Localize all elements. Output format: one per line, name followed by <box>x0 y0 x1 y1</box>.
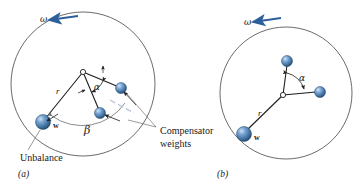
angle-beta-label-a: β <box>83 124 90 137</box>
rotor-hub-b <box>280 92 285 97</box>
rotor-hub-a <box>80 69 85 74</box>
unbalance-callout-a: Unbalance <box>20 152 63 163</box>
radius-label-a: r <box>56 86 60 96</box>
arm-compensator-1-b <box>283 65 287 95</box>
leader-compensator-a-1 <box>127 94 156 127</box>
rotor-circle-a <box>11 12 155 156</box>
radius-label-b: r <box>258 108 262 118</box>
panel-b: ω r w α (b) <box>217 17 352 180</box>
resultant-guide-a <box>110 100 134 113</box>
angle-alpha-label-b: α <box>299 73 305 83</box>
compensator-weight-a-2[interactable] <box>95 108 106 119</box>
arm-unbalance-a <box>45 72 83 119</box>
compensator-weight-b-1[interactable] <box>282 56 293 67</box>
figure-rotor-balancing: ω r w α β Unbalance Compensator weights … <box>0 0 363 186</box>
panel-caption-b: (b) <box>217 169 228 180</box>
unbalance-weight-a[interactable] <box>36 115 51 130</box>
compensator-weight-a-1[interactable] <box>116 83 127 94</box>
unbalance-weight-label-b: w <box>254 133 260 142</box>
compensator-callout-line1-a: Compensator <box>160 125 214 136</box>
pointer-compensator-a-1 <box>124 92 136 105</box>
omega-label-a: ω <box>40 14 48 24</box>
omega-label-b: ω <box>244 17 252 27</box>
tick-arrow-left-a <box>78 90 85 93</box>
unbalance-weight-label-a: w <box>53 121 59 130</box>
unbalance-weight-b[interactable] <box>237 127 252 142</box>
compensator-callout-line2-a: weights <box>160 138 191 149</box>
arm-compensator-2-b <box>283 92 316 95</box>
compensator-weight-b-2[interactable] <box>315 87 326 98</box>
figure-canvas: ω r w α β Unbalance Compensator weights … <box>0 0 363 186</box>
angle-alpha-label-a: α <box>94 82 100 92</box>
panel-caption-a: (a) <box>18 169 29 180</box>
angle-beta-arc-a <box>52 103 125 126</box>
panel-a: ω r w α β Unbalance Compensator weights … <box>11 12 214 180</box>
arm-unbalance-b <box>246 95 283 131</box>
omega-arrow-b[interactable] <box>253 18 281 22</box>
